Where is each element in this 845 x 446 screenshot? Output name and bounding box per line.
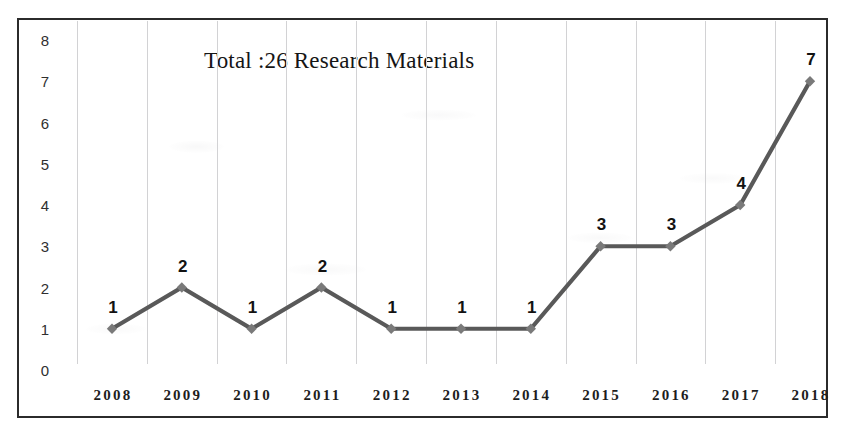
research-materials-line-chart: Total :26 Research Materials 12121113347…	[0, 0, 845, 446]
chart-plot-area: 12121113347	[59, 21, 824, 364]
y-tick-7: 7	[19, 74, 49, 89]
point-label-2014: 1	[527, 299, 536, 316]
y-tick-8: 8	[19, 33, 49, 48]
y-tick-2: 2	[19, 281, 49, 296]
x-tick-2015: 2015	[582, 387, 621, 404]
x-tick-2018: 2018	[792, 387, 831, 404]
series-polyline	[112, 81, 810, 329]
point-label-2011: 2	[318, 258, 327, 275]
point-label-2017: 4	[736, 175, 745, 192]
y-tick-0: 0	[19, 363, 49, 378]
point-label-2016: 3	[667, 216, 676, 233]
y-tick-5: 5	[19, 157, 49, 172]
x-tick-2014: 2014	[512, 387, 551, 404]
x-tick-2009: 2009	[163, 387, 202, 404]
y-tick-3: 3	[19, 239, 49, 254]
x-tick-2017: 2017	[722, 387, 761, 404]
chart-plot-frame: Total :26 Research Materials 12121113347…	[17, 18, 828, 418]
x-tick-2016: 2016	[652, 387, 691, 404]
data-marker-2013	[456, 324, 466, 334]
x-tick-2008: 2008	[94, 387, 133, 404]
point-label-2013: 1	[457, 299, 466, 316]
x-tick-2010: 2010	[233, 387, 272, 404]
point-label-2012: 1	[387, 299, 396, 316]
x-tick-2011: 2011	[303, 387, 341, 404]
y-tick-4: 4	[19, 198, 49, 213]
point-label-2009: 2	[178, 258, 187, 275]
y-tick-6: 6	[19, 116, 49, 131]
point-label-2018: 7	[806, 51, 815, 68]
point-label-2015: 3	[597, 216, 606, 233]
x-tick-2013: 2013	[443, 387, 482, 404]
y-tick-1: 1	[19, 322, 49, 337]
point-label-2010: 1	[248, 299, 257, 316]
point-label-2008: 1	[108, 299, 117, 316]
data-series-line	[59, 21, 826, 374]
x-tick-2012: 2012	[373, 387, 412, 404]
